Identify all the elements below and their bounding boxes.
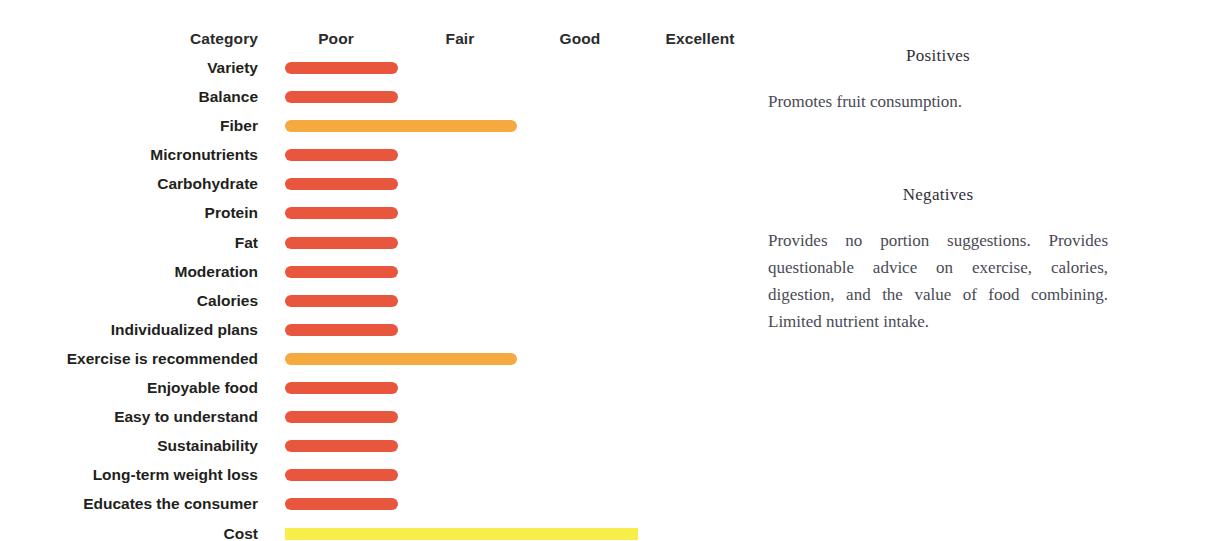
bar-track (285, 469, 760, 482)
bar-fiber (285, 120, 517, 132)
row-label-calories: Calories (197, 291, 258, 311)
chart-row: Long-term weight loss (0, 465, 760, 494)
notes-panel: Positives Promotes fruit consumption. Ne… (768, 0, 1216, 541)
column-header-excellent: Excellent (666, 30, 735, 48)
positives-body: Promotes fruit consumption. (768, 88, 1108, 115)
bar-protein (285, 207, 398, 219)
column-header-good: Good (560, 30, 601, 48)
bar-moderation (285, 266, 398, 278)
bar-track (285, 440, 760, 453)
bar-track (285, 498, 760, 511)
chart-row: Sustainability (0, 436, 760, 465)
row-label-fat: Fat (235, 233, 258, 253)
bar-track (285, 295, 760, 308)
bar-cost (285, 528, 638, 540)
negatives-body: Provides no portion suggestions. Provide… (768, 227, 1108, 335)
bar-sustainability (285, 440, 398, 452)
bar-track (285, 411, 760, 424)
bar-long-term-weight-loss (285, 469, 398, 481)
row-label-balance: Balance (199, 87, 258, 107)
chart-row: Micronutrients (0, 145, 760, 174)
positives-section: Positives Promotes fruit consumption. (768, 46, 1108, 115)
bar-balance (285, 91, 398, 103)
chart-row: Carbohydrate (0, 174, 760, 203)
bar-track (285, 528, 760, 541)
bar-carbohydrate (285, 178, 398, 190)
chart-row: Balance (0, 87, 760, 116)
bar-variety (285, 62, 398, 74)
bar-fat (285, 237, 398, 249)
bar-track (285, 120, 760, 133)
negatives-title: Negatives (768, 185, 1108, 205)
chart-row: Fat (0, 233, 760, 262)
negatives-section: Negatives Provides no portion suggestion… (768, 185, 1108, 335)
bar-track (285, 382, 760, 395)
bar-micronutrients (285, 149, 398, 161)
chart-row: Variety (0, 58, 760, 87)
column-header-fair: Fair (446, 30, 475, 48)
row-label-easy-to-understand: Easy to understand (114, 407, 258, 427)
chart-row: Moderation (0, 262, 760, 291)
row-label-carbohydrate: Carbohydrate (157, 174, 258, 194)
bar-educates-the-consumer (285, 498, 398, 510)
bar-exercise-is-recommended (285, 353, 517, 365)
bar-calories (285, 295, 398, 307)
row-label-variety: Variety (207, 58, 258, 78)
chart-row: Easy to understand (0, 407, 760, 436)
chart-row: Calories (0, 291, 760, 320)
row-label-fiber: Fiber (220, 116, 258, 136)
bar-track (285, 149, 760, 162)
row-label-enjoyable-food: Enjoyable food (147, 378, 258, 398)
bar-individualized-plans (285, 324, 398, 336)
chart-row: Cost (0, 524, 760, 541)
bar-track (285, 266, 760, 279)
row-label-micronutrients: Micronutrients (150, 145, 258, 165)
bar-track (285, 353, 760, 366)
row-label-individualized-plans: Individualized plans (111, 320, 258, 340)
row-label-sustainability: Sustainability (157, 436, 258, 456)
chart-header-row: Category PoorFairGoodExcellent (0, 30, 760, 52)
chart-row: Individualized plans (0, 320, 760, 349)
row-label-long-term-weight-loss: Long-term weight loss (93, 465, 258, 485)
bar-track (285, 237, 760, 250)
chart-row: Fiber (0, 116, 760, 145)
ratings-chart: Category PoorFairGoodExcellent VarietyBa… (0, 0, 760, 541)
row-label-moderation: Moderation (174, 262, 258, 282)
bar-easy-to-understand (285, 411, 398, 423)
bar-track (285, 178, 760, 191)
bar-track (285, 91, 760, 104)
positives-title: Positives (768, 46, 1108, 66)
bar-track (285, 207, 760, 220)
row-label-protein: Protein (205, 203, 258, 223)
bar-track (285, 324, 760, 337)
row-label-cost: Cost (224, 524, 258, 541)
bar-enjoyable-food (285, 382, 398, 394)
column-header-poor: Poor (318, 30, 354, 48)
chart-rows: VarietyBalanceFiberMicronutrientsCarbohy… (0, 58, 760, 541)
chart-row: Educates the consumer (0, 494, 760, 523)
diet-rating-figure: Category PoorFairGoodExcellent VarietyBa… (0, 0, 1216, 541)
row-label-exercise-is-recommended: Exercise is recommended (67, 349, 258, 369)
bar-track (285, 62, 760, 75)
chart-row: Protein (0, 203, 760, 232)
chart-row: Enjoyable food (0, 378, 760, 407)
chart-row: Exercise is recommended (0, 349, 760, 378)
column-header-category: Category (190, 30, 258, 48)
row-label-educates-the-consumer: Educates the consumer (83, 494, 258, 514)
